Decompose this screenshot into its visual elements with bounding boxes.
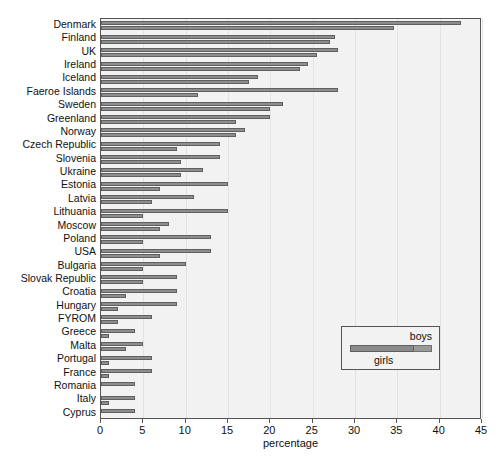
category-axis-labels: DenmarkFinlandUKIrelandIcelandFaeroe Isl… xyxy=(0,18,96,419)
bar-row xyxy=(101,209,480,222)
category-label: Slovak Republic xyxy=(21,273,96,284)
bar-boys xyxy=(101,168,203,172)
bar-boys xyxy=(101,302,177,306)
category-label: UK xyxy=(81,46,96,57)
bar-boys xyxy=(101,195,194,199)
bar-girls xyxy=(101,374,109,378)
bar-row xyxy=(101,222,480,235)
bar-row xyxy=(101,396,480,409)
category-label: Sweden xyxy=(58,99,96,110)
bar-row xyxy=(101,88,480,101)
x-tick xyxy=(354,419,355,423)
bar-boys xyxy=(101,48,338,52)
bar-row xyxy=(101,249,480,262)
bar-boys xyxy=(101,356,152,360)
bar-row xyxy=(101,115,480,128)
x-tick xyxy=(312,419,313,423)
bar-boys xyxy=(101,62,308,66)
category-label: Denmark xyxy=(53,19,96,30)
x-tick-label: 5 xyxy=(139,424,145,436)
bar-boys xyxy=(101,222,169,226)
bar-row xyxy=(101,168,480,181)
bar-row xyxy=(101,182,480,195)
bar-row xyxy=(101,48,480,61)
x-axis-title: percentage xyxy=(100,437,481,449)
bar-girls xyxy=(101,240,143,244)
bar-boys xyxy=(101,409,135,413)
legend-label-girls: girls xyxy=(374,355,393,366)
bar-boys xyxy=(101,35,335,39)
bar-girls xyxy=(101,53,317,57)
bar-girls xyxy=(101,173,181,177)
bar-girls xyxy=(101,280,143,284)
bar-row xyxy=(101,21,480,34)
bar-girls xyxy=(101,26,394,30)
x-tick-label: 35 xyxy=(390,424,402,436)
bar-girls xyxy=(101,294,126,298)
bar-girls xyxy=(101,320,118,324)
x-tick-label: 0 xyxy=(97,424,103,436)
bar-boys xyxy=(101,21,461,25)
category-label: Malta xyxy=(70,340,96,351)
bar-girls xyxy=(101,200,152,204)
bar-row xyxy=(101,275,480,288)
x-tick xyxy=(439,419,440,423)
bar-boys xyxy=(101,88,338,92)
bar-boys xyxy=(101,209,228,213)
bar-boys xyxy=(101,128,245,132)
bar-row xyxy=(101,128,480,141)
bar-row xyxy=(101,155,480,168)
category-label: Norway xyxy=(60,126,96,137)
x-tick-label: 30 xyxy=(348,424,360,436)
category-label: Finland xyxy=(62,32,96,43)
x-tick xyxy=(142,419,143,423)
x-tick xyxy=(481,419,482,423)
category-label: Romania xyxy=(54,380,96,391)
bar-boys xyxy=(101,289,177,293)
category-label: Moscow xyxy=(57,220,96,231)
category-label: Ukraine xyxy=(60,166,96,177)
bar-boys xyxy=(101,249,211,253)
x-tick xyxy=(100,419,101,423)
category-label: Poland xyxy=(63,233,96,244)
bar-girls xyxy=(101,227,160,231)
bar-row xyxy=(101,195,480,208)
bar-girls xyxy=(101,147,177,151)
category-label: USA xyxy=(74,246,96,257)
bar-girls xyxy=(101,267,143,271)
bar-row xyxy=(101,369,480,382)
bar-girls xyxy=(101,107,270,111)
bar-girls xyxy=(101,254,160,258)
bar-girls xyxy=(101,347,126,351)
legend-swatch-girls xyxy=(350,345,414,352)
x-tick xyxy=(396,419,397,423)
bar-boys xyxy=(101,342,143,346)
bar-row xyxy=(101,102,480,115)
bar-row xyxy=(101,235,480,248)
bar-row xyxy=(101,382,480,395)
bar-girls xyxy=(101,401,109,405)
bar-boys xyxy=(101,102,283,106)
bar-boys xyxy=(101,275,177,279)
category-label: Portugal xyxy=(57,353,96,364)
bar-girls xyxy=(101,187,160,191)
bar-chart-figure: DenmarkFinlandUKIrelandIcelandFaeroe Isl… xyxy=(0,0,498,463)
category-label: Slovenia xyxy=(56,153,96,164)
legend-swatch-boys xyxy=(350,345,432,352)
bar-boys xyxy=(101,142,220,146)
x-tick xyxy=(185,419,186,423)
category-label: Hungary xyxy=(56,300,96,311)
x-tick xyxy=(227,419,228,423)
bar-girls xyxy=(101,133,236,137)
bar-boys xyxy=(101,396,135,400)
bar-girls xyxy=(101,120,236,124)
legend-label-boys: boys xyxy=(410,331,432,342)
bar-boys xyxy=(101,315,152,319)
x-tick-label: 25 xyxy=(306,424,318,436)
bar-row xyxy=(101,289,480,302)
legend: boys girls xyxy=(341,326,440,370)
bar-boys xyxy=(101,369,152,373)
bar-row xyxy=(101,35,480,48)
bar-boys xyxy=(101,235,211,239)
category-label: Estonia xyxy=(61,179,96,190)
